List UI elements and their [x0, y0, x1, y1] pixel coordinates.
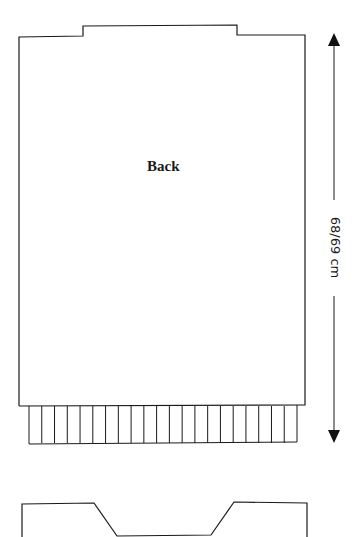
schematic-canvas: [0, 0, 358, 537]
length-dimension-label: 68/69 cm: [328, 213, 343, 283]
front-piece-outline: [22, 502, 307, 537]
arrow-down-icon: [328, 430, 340, 443]
arrow-up-icon: [328, 33, 340, 46]
back-piece-label: Back: [147, 158, 180, 175]
back-piece-outline: [19, 25, 305, 406]
back-ribbing: [29, 405, 297, 444]
